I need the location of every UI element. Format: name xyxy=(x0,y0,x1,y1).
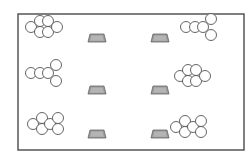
desk-right-top-icon xyxy=(151,34,169,42)
seat-circle-icon xyxy=(196,127,207,138)
seat-circle-icon xyxy=(53,124,64,135)
seat-circle-icon xyxy=(206,30,217,41)
seat-circle-icon xyxy=(53,113,64,124)
desk-left-top-icon xyxy=(88,34,106,42)
group-right-bottom xyxy=(171,116,207,138)
diagram-canvas xyxy=(0,0,252,158)
seat-circle-icon xyxy=(52,22,63,33)
group-right-top xyxy=(181,14,217,41)
desk-right-bottom-icon xyxy=(151,130,169,138)
seat-circle-icon xyxy=(51,76,62,87)
circle-groups-layer xyxy=(26,14,217,138)
desk-left-middle-icon xyxy=(88,86,106,94)
group-left-top xyxy=(26,16,63,38)
desk-left-bottom-icon xyxy=(88,130,106,138)
group-left-bottom xyxy=(28,113,64,135)
group-right-middle xyxy=(175,65,211,87)
seating-diagram xyxy=(0,0,252,158)
seat-circle-icon xyxy=(206,14,217,25)
seat-circle-icon xyxy=(51,60,62,71)
seat-circle-icon xyxy=(196,116,207,127)
group-left-middle xyxy=(26,60,62,87)
seat-circle-icon xyxy=(200,71,211,82)
desk-right-middle-icon xyxy=(151,86,169,94)
desks-layer xyxy=(88,34,169,138)
